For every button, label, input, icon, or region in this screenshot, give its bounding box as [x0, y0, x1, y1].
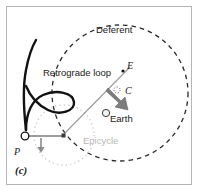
earth-marker [102, 109, 109, 116]
point-E-label: E [127, 61, 133, 71]
earth-label: Earth [110, 114, 133, 124]
retrograde-loop-curl [26, 86, 74, 130]
figure-container: Deferent Retrograde loop Earth Epicycle … [0, 0, 200, 193]
direction-arrow-P [38, 138, 45, 153]
deferent-label: Deferent [96, 25, 132, 35]
epicycle-label: Epicycle [83, 136, 118, 146]
retrograde-loop-label: Retrograde loop [43, 68, 111, 78]
epicycle-center-marker [62, 134, 66, 138]
panel-label: (c) [15, 165, 27, 176]
point-P-label: P [14, 147, 20, 157]
point-C-label: C [125, 86, 132, 96]
point-C-marker [114, 87, 120, 93]
deferent-circle [52, 25, 188, 161]
point-E-marker [121, 69, 124, 72]
point-P-marker [21, 132, 29, 140]
